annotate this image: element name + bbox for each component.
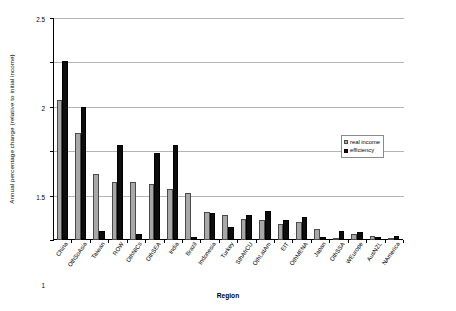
bar-group [57, 18, 68, 240]
y-axis-tick-label: 1 [41, 282, 45, 289]
legend-item-real-income: real income [344, 138, 380, 146]
y-axis-title: Annual percentage change (relative to in… [8, 54, 15, 203]
legend-label-efficiency: efficiency [350, 146, 374, 154]
y-axis-title-container: Annual percentage change (relative to in… [9, 0, 23, 240]
y-axis-tick-label: 2 [41, 104, 45, 111]
bar-efficiency [117, 145, 123, 240]
bar-group [259, 18, 270, 240]
bar-group [351, 18, 362, 240]
bar-group [296, 18, 307, 240]
bar-group [112, 18, 123, 240]
legend-label-real-income: real income [350, 138, 380, 146]
bars-layer [53, 18, 403, 240]
y-axis-tick-label: 2.5 [36, 16, 45, 23]
bar-group [204, 18, 215, 240]
x-axis-category-labels: ChinaOthSoAsiaTaiwanROWOthNICsOthSEAIndi… [53, 241, 403, 293]
bar-group [370, 18, 381, 240]
bar-group [149, 18, 160, 240]
bar-group [185, 18, 196, 240]
bar-efficiency [62, 61, 68, 240]
y-axis-tick-label: 1.5 [36, 193, 45, 200]
legend-swatch-efficiency-icon [344, 149, 348, 153]
bar-efficiency [81, 107, 87, 240]
bar-group [333, 18, 344, 240]
bar-chart-figure: Annual percentage change (relative to in… [0, 0, 456, 311]
bar-group [388, 18, 399, 240]
chart-legend: real income efficiency [341, 135, 384, 158]
bar-group [167, 18, 178, 240]
bar-group [222, 18, 233, 240]
legend-swatch-real-income-icon [344, 140, 348, 144]
x-axis-title: Region [0, 292, 456, 299]
legend-item-efficiency: efficiency [344, 146, 380, 154]
bar-group [314, 18, 325, 240]
bar-group [75, 18, 86, 240]
bar-group [278, 18, 289, 240]
bar-group [241, 18, 252, 240]
bar-group [93, 18, 104, 240]
bar-group [130, 18, 141, 240]
